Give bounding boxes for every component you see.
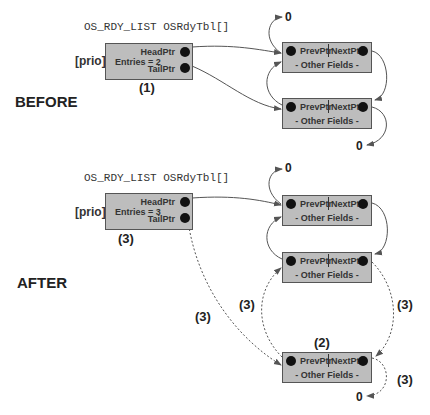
after-null-bottom: 0 xyxy=(356,390,363,404)
next-ptr-dot-icon xyxy=(358,102,368,112)
next-ptr-dot-icon xyxy=(358,356,368,366)
before-head-ptr-label: HeadPtr xyxy=(140,47,175,57)
other-fields-label: - Other Fields - xyxy=(283,116,371,126)
before-null-bottom: 0 xyxy=(356,139,363,153)
next-ptr-dot-icon xyxy=(358,46,368,56)
after-tcb-node-1: PrevPtr NextPtr - Other Fields - xyxy=(282,195,372,226)
next-ptr-dot-icon xyxy=(358,199,368,209)
other-fields-label: - Other Fields - xyxy=(283,213,371,223)
after-tcb-node-3-new: PrevPtr NextPtr - Other Fields - xyxy=(282,352,372,383)
before-list-head: Entries = 2 HeadPtr TailPtr xyxy=(105,43,193,80)
after-table-title: OS_RDY_LIST OSRdyTbl[] xyxy=(84,172,229,184)
prev-ptr-dot-icon xyxy=(286,46,296,56)
field-divider xyxy=(328,44,329,57)
after-step-3-prevptr-label: (3) xyxy=(239,297,255,312)
after-step-3-nextptr-label: (3) xyxy=(397,297,413,312)
after-null-top: 0 xyxy=(285,161,292,175)
prev-ptr-dot-icon xyxy=(286,356,296,366)
field-divider xyxy=(328,197,329,210)
before-null-top: 0 xyxy=(285,10,292,24)
after-tail-ptr-label: TailPtr xyxy=(148,214,175,224)
after-prio-index-label: [prio] xyxy=(75,205,106,219)
after-step-2-new-node-label: (2) xyxy=(314,335,330,350)
after-list-head: Entries = 3 HeadPtr TailPtr xyxy=(105,193,193,230)
after-step-3-tailptr-label: (3) xyxy=(195,309,211,324)
before-tcb-node-2: PrevPtr NextPtr - Other Fields - xyxy=(282,98,372,129)
before-tail-ptr-dot-icon xyxy=(180,63,190,73)
other-fields-label: - Other Fields - xyxy=(283,270,371,280)
after-tcb-node-2: PrevPtr NextPtr - Other Fields - xyxy=(282,252,372,283)
prev-ptr-dot-icon xyxy=(286,102,296,112)
after-step-3-null-label: (3) xyxy=(397,372,413,387)
after-head-ptr-label: HeadPtr xyxy=(140,197,175,207)
after-tail-ptr-dot-icon xyxy=(180,213,190,223)
before-tcb-node-1: PrevPtr NextPtr - Other Fields - xyxy=(282,42,372,73)
after-head-ptr-dot-icon xyxy=(180,197,190,207)
before-tail-ptr-label: TailPtr xyxy=(148,64,175,74)
next-ptr-dot-icon xyxy=(358,256,368,266)
after-stage-label: AFTER xyxy=(17,274,67,291)
field-divider xyxy=(328,254,329,267)
prev-ptr-dot-icon xyxy=(286,256,296,266)
before-table-title: OS_RDY_LIST OSRdyTbl[] xyxy=(84,21,229,33)
after-step-3-head-label: (3) xyxy=(118,231,134,246)
field-divider xyxy=(328,100,329,113)
before-head-ptr-dot-icon xyxy=(180,47,190,57)
prev-ptr-dot-icon xyxy=(286,199,296,209)
before-stage-label: BEFORE xyxy=(15,93,78,110)
other-fields-label: - Other Fields - xyxy=(283,370,371,380)
before-prio-index-label: [prio] xyxy=(75,54,106,68)
before-step-1-label: (1) xyxy=(139,80,155,95)
other-fields-label: - Other Fields - xyxy=(283,60,371,70)
field-divider xyxy=(328,354,329,367)
